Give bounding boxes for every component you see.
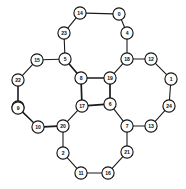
node-label: 9 <box>17 105 20 111</box>
graph-node[interactable]: 20 <box>57 120 69 132</box>
graph-node[interactable]: 5 <box>59 53 71 65</box>
graph-edge <box>169 84 170 100</box>
graph-edge <box>64 39 65 54</box>
node-label: 15 <box>34 57 40 63</box>
graph-node[interactable]: 4 <box>121 27 133 39</box>
node-label: 0 <box>118 11 121 17</box>
graph-edge <box>112 156 124 169</box>
graph-node[interactable]: 22 <box>12 74 24 86</box>
node-label: 20 <box>60 123 66 129</box>
node-label: 2 <box>62 150 65 156</box>
graph-node[interactable]: 19 <box>104 72 116 84</box>
graph-edge <box>155 110 166 122</box>
node-label: 22 <box>15 77 21 83</box>
graph-node[interactable]: 15 <box>31 54 43 66</box>
graph-edge <box>67 17 76 28</box>
graph-diagram-canvas: 0123456789101112131415161718192021222324 <box>0 0 186 189</box>
graph-edge <box>44 126 58 127</box>
graph-node[interactable]: 13 <box>145 120 157 132</box>
graph-edge <box>22 64 33 76</box>
node-label: 1 <box>170 76 173 82</box>
graph-edge <box>81 84 82 101</box>
node-label: 14 <box>77 10 83 16</box>
node-label: 11 <box>78 170 83 176</box>
graph-node[interactable]: 14 <box>74 7 86 19</box>
graph-node[interactable]: 2 <box>57 147 69 159</box>
node-label: 4 <box>126 30 129 36</box>
graph-edge <box>121 19 125 28</box>
graph-edge <box>22 111 34 123</box>
graph-edge <box>155 63 167 75</box>
graph-node[interactable]: 17 <box>76 100 88 112</box>
node-label: 18 <box>124 56 130 62</box>
graph-node[interactable]: 8 <box>75 72 87 84</box>
graph-edge <box>113 108 123 121</box>
node-label: 12 <box>148 56 154 62</box>
graph-node[interactable]: 10 <box>32 121 44 133</box>
graph-node[interactable]: 6 <box>104 98 116 110</box>
graph-node[interactable]: 21 <box>121 146 133 158</box>
node-label: 16 <box>105 170 111 176</box>
graph-edge <box>87 104 104 105</box>
node-label: 7 <box>126 123 129 129</box>
node-label: 5 <box>64 56 67 62</box>
graph-edge <box>69 63 78 74</box>
node-label: 21 <box>124 149 130 155</box>
graph-node[interactable]: 0 <box>113 8 125 20</box>
graph-edge <box>43 59 60 60</box>
graph-node[interactable]: 1 <box>165 73 177 85</box>
node-label: 10 <box>35 124 41 130</box>
nodes-layer: 0123456789101112131415161718192021222324 <box>12 7 177 179</box>
node-label: 8 <box>80 75 83 81</box>
graph-edge <box>86 13 114 14</box>
node-label: 19 <box>107 75 113 81</box>
graph-node[interactable]: 9 <box>12 102 24 114</box>
graph-edge <box>67 110 78 122</box>
graph-node[interactable]: 24 <box>163 100 175 112</box>
graph-edge <box>67 157 78 169</box>
node-label: 24 <box>166 103 172 109</box>
graph-node[interactable]: 12 <box>145 53 157 65</box>
node-label: 6 <box>109 101 112 107</box>
graph-node[interactable]: 7 <box>121 120 133 132</box>
node-label: 23 <box>61 30 67 36</box>
graph-node[interactable]: 16 <box>102 167 114 179</box>
node-label: 17 <box>79 103 85 109</box>
graph-node[interactable]: 11 <box>75 167 87 179</box>
graph-svg: 0123456789101112131415161718192021222324 <box>0 0 186 189</box>
graph-edge <box>114 63 124 74</box>
node-label: 13 <box>148 123 154 129</box>
edges-layer <box>18 13 171 173</box>
graph-node[interactable]: 18 <box>121 53 133 65</box>
graph-node[interactable]: 23 <box>58 27 70 39</box>
